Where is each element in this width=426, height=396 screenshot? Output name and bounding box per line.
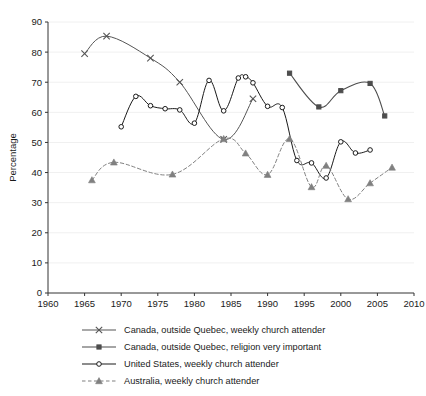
y-tick-label: 30 [31,197,42,208]
legend-entry: United States, weekly church attender [82,359,279,369]
x-tick-label: 1990 [257,298,278,309]
triangle-marker [367,180,374,186]
y-tick-label: 50 [31,137,42,148]
x-tick-label: 1965 [74,298,95,309]
triangle-marker [286,135,293,141]
y-tick-label: 70 [31,77,42,88]
y-tick-label: 40 [31,167,42,178]
circle-marker [280,105,285,110]
series-1 [287,71,386,118]
circle-marker [295,158,300,163]
circle-marker [207,78,212,83]
line-chart: 0102030405060708090 19601965197019751980… [0,0,426,396]
square-marker [287,71,291,75]
x-tick-label: 2005 [367,298,388,309]
legend-label: Canada, outside Quebec, weekly church at… [124,325,325,335]
circle-marker [324,176,329,181]
circle-marker [368,148,373,153]
x-tick-label: 1985 [220,298,241,309]
circle-marker [339,140,344,145]
circle-marker [309,161,314,166]
circle-marker [97,362,102,367]
square-marker [339,89,343,93]
series-2 [119,75,372,181]
circle-marker [236,76,241,81]
gridlines-group [48,22,414,263]
square-marker [97,345,101,349]
y-axis-title-text: Percentage [7,133,18,182]
circle-marker [134,94,139,99]
axes-group [48,22,414,293]
y-tick-label: 20 [31,227,42,238]
circle-marker [119,124,124,129]
x-axis-ticks: 1960196519701975198019851990199520002005… [37,293,424,309]
y-tick-label: 60 [31,107,42,118]
square-marker [317,105,321,109]
legend-label: Australia, weekly church attender [124,376,259,386]
circle-marker [265,104,270,109]
x-tick-label: 1980 [184,298,205,309]
series-line [92,138,392,199]
x-tick-label: 1970 [111,298,132,309]
y-tick-label: 80 [31,47,42,58]
x-tick-label: 1995 [294,298,315,309]
triangle-marker [323,162,330,168]
legend-label: United States, weekly church attender [124,359,279,369]
triangle-marker [389,164,396,170]
x-tick-label: 1960 [37,298,58,309]
chart-legend: Canada, outside Quebec, weekly church at… [82,325,325,386]
x-tick-label: 2010 [403,298,424,309]
circle-marker [148,103,153,108]
legend-entry: Canada, outside Quebec, religion very im… [82,342,322,352]
series-line [290,73,385,116]
x-tick-label: 1975 [147,298,168,309]
data-series-group [81,33,395,202]
circle-marker [243,75,248,80]
square-marker [368,81,372,85]
circle-marker [177,108,182,113]
legend-entry: Australia, weekly church attender [82,376,259,386]
y-tick-label: 10 [31,257,42,268]
circle-marker [251,81,256,86]
circle-marker [192,121,197,126]
x-tick-label: 2000 [330,298,351,309]
y-axis-title: Percentage [7,133,18,182]
y-tick-label: 90 [31,16,42,27]
series-line [121,75,370,179]
y-axis-ticks: 0102030405060708090 [31,16,48,298]
square-marker [383,114,387,118]
legend-entry: Canada, outside Quebec, weekly church at… [82,325,325,335]
circle-marker [221,109,226,114]
triangle-marker [345,196,352,202]
series-3 [89,135,396,201]
legend-label: Canada, outside Quebec, religion very im… [124,342,322,352]
chart-figure: 0102030405060708090 19601965197019751980… [0,0,426,396]
series-0 [81,33,256,143]
circle-marker [163,106,168,111]
circle-marker [353,151,358,156]
